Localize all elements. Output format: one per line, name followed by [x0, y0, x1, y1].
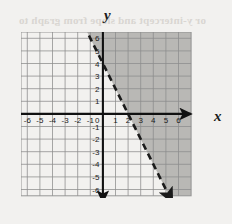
svg-text:4: 4 — [151, 116, 156, 125]
svg-text:5: 5 — [95, 47, 100, 56]
x-axis-label: x — [214, 108, 222, 125]
svg-text:-6: -6 — [92, 186, 100, 195]
svg-text:-4: -4 — [92, 160, 100, 169]
svg-text:6: 6 — [95, 34, 100, 43]
scanned-page: or y-intercept and slope from graph to y… — [0, 0, 232, 224]
svg-text:-2: -2 — [92, 135, 100, 144]
svg-text:0: 0 — [95, 116, 100, 125]
svg-text:-3: -3 — [62, 116, 70, 125]
svg-text:-6: -6 — [24, 116, 32, 125]
svg-text:-5: -5 — [92, 173, 100, 182]
svg-text:5: 5 — [164, 116, 169, 125]
y-axis-label: y — [104, 7, 111, 24]
svg-text:1: 1 — [113, 116, 118, 125]
coordinate-plane: -6-5-4-3-2-1123456654321-1-2-3-4-5-60 — [21, 32, 197, 198]
svg-text:-3: -3 — [92, 148, 100, 157]
svg-text:3: 3 — [95, 72, 100, 81]
svg-text:-5: -5 — [36, 116, 44, 125]
svg-text:-4: -4 — [49, 116, 57, 125]
svg-text:4: 4 — [95, 60, 100, 69]
svg-text:-2: -2 — [74, 116, 82, 125]
svg-text:1: 1 — [95, 97, 100, 106]
svg-text:6: 6 — [176, 116, 181, 125]
svg-text:2: 2 — [126, 116, 131, 125]
graph-svg: -6-5-4-3-2-1123456654321-1-2-3-4-5-60 — [21, 32, 197, 198]
svg-text:2: 2 — [95, 85, 100, 94]
svg-text:3: 3 — [138, 116, 143, 125]
